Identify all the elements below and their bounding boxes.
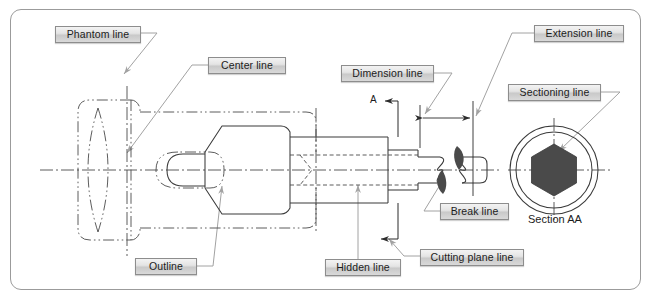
leader-cutting-plane-line [389, 239, 420, 256]
callout-label: Outline [149, 261, 183, 272]
section-cut-letter-a: A [370, 94, 377, 105]
section-hexagon-hatched [532, 144, 577, 196]
callout-dimension-line[interactable]: Dimension line [341, 65, 434, 82]
callout-phantom-line[interactable]: Phantom line [55, 26, 141, 43]
callout-label: Sectioning line [520, 87, 590, 98]
callout-break-line[interactable]: Break line [440, 203, 509, 220]
callout-label: Center line [221, 60, 273, 71]
leader-outline [197, 186, 222, 266]
callout-cutting-plane-line[interactable]: Cutting plane line [420, 249, 524, 266]
callout-label: Phantom line [67, 29, 130, 40]
callout-extension-line[interactable]: Extension line [534, 25, 624, 42]
outline-taper-top [205, 126, 281, 152]
callout-hidden-line[interactable]: Hidden line [325, 259, 401, 276]
phantom-corner-lower [131, 228, 140, 240]
callout-center-line[interactable]: Center line [208, 57, 286, 74]
callout-label: Dimension line [352, 68, 422, 79]
outline-taper-bottom [205, 188, 281, 214]
callout-label: Extension line [546, 28, 613, 39]
outline-shoulder-top-fillet [281, 126, 290, 137]
callout-label: Cutting plane line [431, 252, 514, 263]
break-line-lobe-upper [454, 146, 464, 170]
callout-label: Break line [451, 206, 499, 217]
callout-sectioning-line[interactable]: Sectioning line [508, 84, 601, 101]
leader-center-line [127, 65, 208, 153]
section-view-title: Section AA [528, 213, 582, 225]
break-line-lobe-lower [437, 170, 446, 194]
outline-shoulder-bottom-fillet [281, 203, 290, 214]
leader-extension-line [476, 33, 534, 116]
figure-root: Phantom line Center line Dimension line … [0, 0, 651, 304]
callout-outline[interactable]: Outline [135, 258, 197, 275]
center-lines [40, 86, 612, 256]
callout-label: Hidden line [336, 262, 390, 273]
phantom-corner-upper [131, 100, 140, 112]
